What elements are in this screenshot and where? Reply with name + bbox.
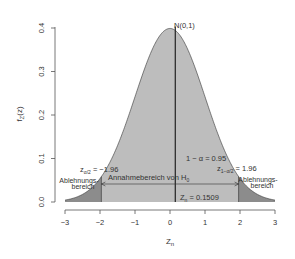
x-tick-label: −3: [61, 218, 70, 227]
x-tick-label: 0: [168, 218, 172, 227]
x-axis: −3−2−10123 Zn: [61, 210, 277, 247]
x-tick-label: 3: [273, 218, 277, 227]
y-tick-label: 0.4: [37, 23, 46, 33]
y-tick-label: 0.3: [37, 66, 46, 76]
svg-text:bereich: bereich: [251, 182, 274, 189]
svg-text:bereich: bereich: [72, 183, 95, 190]
y-tick-label: 0.2: [37, 110, 46, 120]
y-tick-label: 0.1: [37, 153, 46, 163]
x-tick-label: 1: [203, 218, 207, 227]
confidence-label: 1 − α = 0.95: [186, 154, 226, 163]
distribution-label: N(0,1): [174, 21, 195, 30]
x-axis-label: Zn: [166, 237, 174, 247]
x-tick-label: −2: [96, 218, 105, 227]
left-rejection-label: Ablehnungs- bereich: [59, 177, 99, 190]
y-axis: 0.00.10.20.30.4 fZ(z): [15, 23, 55, 207]
x-tick-label: 2: [238, 218, 242, 227]
y-tick-label: 0.0: [37, 197, 46, 207]
x-tick-label: −1: [131, 218, 140, 227]
y-axis-label: fZ(z): [15, 106, 25, 122]
normal-distribution-chart: 0.00.10.20.30.4 fZ(z) −3−2−10123 Zn N(0,…: [0, 0, 295, 259]
acceptance-region-label: Annahmebereich von H0: [108, 173, 189, 183]
